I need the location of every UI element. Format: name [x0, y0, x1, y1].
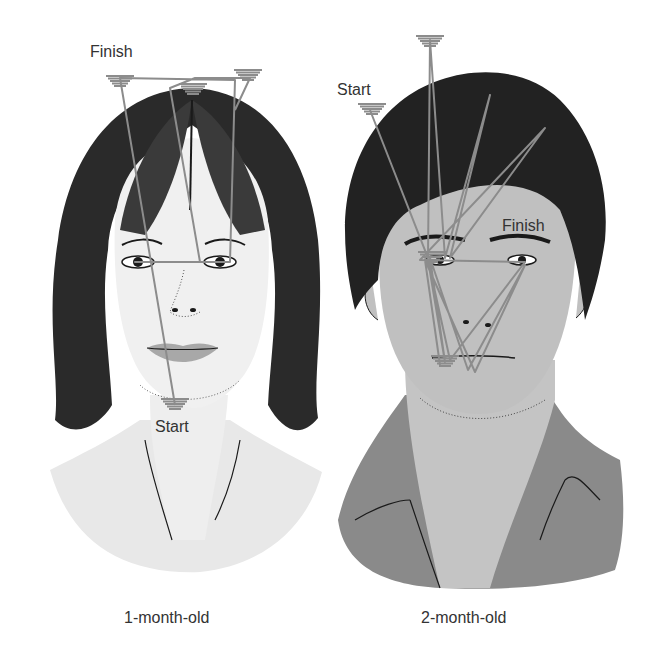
fixation-cluster-icon [416, 36, 444, 46]
fixation-cluster-icon [106, 76, 134, 86]
fixation-cluster-icon [358, 104, 386, 114]
man-illustration [338, 72, 623, 589]
right-caption: 2-month-old [421, 610, 506, 626]
woman-illustration [50, 88, 322, 572]
left-start-label: Start [155, 419, 189, 435]
face-scanning-figure: Finish Start Start Finish 1-month-old 2-… [0, 0, 661, 652]
right-start-label: Start [337, 82, 371, 98]
left-finish-label: Finish [90, 44, 133, 60]
left-caption: 1-month-old [124, 610, 209, 626]
right-finish-label: Finish [502, 218, 545, 234]
illustration-canvas [0, 0, 661, 652]
